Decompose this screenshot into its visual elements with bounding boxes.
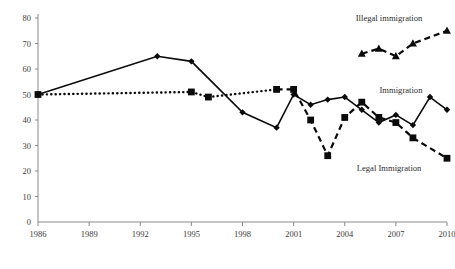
data-point-diamond (154, 53, 160, 59)
x-tick-label: 1995 (183, 229, 200, 239)
data-point-square (324, 152, 331, 159)
y-tick-label: 60 (23, 64, 32, 74)
y-tick-label: 20 (23, 166, 32, 176)
series-illegal-immigration (358, 27, 451, 60)
y-axis: 01020304050607080 (23, 13, 39, 227)
y-tick-label: 70 (23, 39, 32, 49)
immigration-opinion-chart: 01020304050607080 1986198919921995199820… (0, 0, 455, 269)
y-tick-label: 50 (23, 90, 32, 100)
series-labels: Illegal immigrationImmigrationLegal Immi… (356, 13, 423, 173)
data-point-square (35, 91, 42, 98)
series-path-dotted (38, 89, 277, 97)
data-point-square (444, 155, 451, 162)
data-point-triangle (375, 44, 383, 51)
x-tick-label: 2007 (387, 229, 404, 239)
x-tick-label: 1992 (132, 229, 149, 239)
series-path (362, 31, 447, 57)
series-annotation: Illegal immigration (356, 13, 423, 23)
series-annotation: Legal Immigration (357, 163, 422, 173)
x-tick-label: 2010 (439, 229, 455, 239)
x-axis: 198619891992199519982001200420072010 (30, 222, 455, 239)
x-tick-label: 1986 (30, 229, 47, 239)
chart-canvas: 01020304050607080 1986198919921995199820… (0, 0, 455, 269)
x-tick-label: 1998 (234, 229, 251, 239)
series-annotation: Immigration (380, 85, 424, 95)
y-tick-label: 80 (23, 13, 32, 23)
data-point-square (290, 86, 297, 93)
x-tick-label: 2001 (285, 229, 302, 239)
series-legal-immigration (35, 86, 451, 162)
y-tick-label: 10 (23, 192, 32, 202)
x-tick-label: 1989 (81, 229, 98, 239)
y-tick-label: 30 (23, 141, 32, 151)
data-point-square (358, 99, 365, 106)
data-point-square (188, 89, 195, 96)
x-tick-label: 2004 (336, 229, 354, 239)
data-point-square (375, 114, 382, 121)
y-tick-label: 40 (23, 115, 32, 125)
data-point-square (341, 114, 348, 121)
data-point-triangle (443, 27, 451, 34)
data-point-square (307, 117, 314, 124)
data-point-diamond (325, 96, 331, 102)
data-point-square (392, 119, 399, 126)
data-point-square (273, 86, 280, 93)
data-point-square (205, 94, 212, 101)
data-point-diamond (273, 124, 279, 130)
data-point-square (410, 134, 417, 141)
y-tick-label: 0 (27, 217, 31, 227)
